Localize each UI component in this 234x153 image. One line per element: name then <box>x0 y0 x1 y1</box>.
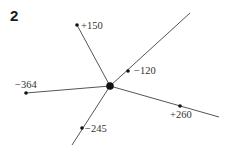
charge-diagram: +150−120−364−245+260 <box>0 0 234 153</box>
branch-line <box>26 86 110 93</box>
charge-label: +150 <box>81 20 103 31</box>
branch-plus-150: +150 <box>75 20 110 86</box>
branch-line <box>72 86 110 145</box>
charge-dot <box>75 23 79 27</box>
branch-minus-245: −245 <box>72 86 110 145</box>
charge-label: −364 <box>15 79 37 90</box>
branch-line <box>110 86 219 117</box>
branch-line <box>77 25 110 86</box>
center-node <box>106 82 114 90</box>
charge-dot <box>126 69 130 73</box>
charge-dot <box>178 104 182 108</box>
branch-plus-260: +260 <box>110 86 219 120</box>
charge-label: −120 <box>134 65 156 76</box>
charge-label: +260 <box>170 109 192 120</box>
charge-dot <box>24 91 28 95</box>
branch-minus-120: −120 <box>110 13 190 86</box>
charge-label: −245 <box>85 123 107 134</box>
branch-minus-364: −364 <box>15 79 110 95</box>
charge-dot <box>80 126 84 130</box>
